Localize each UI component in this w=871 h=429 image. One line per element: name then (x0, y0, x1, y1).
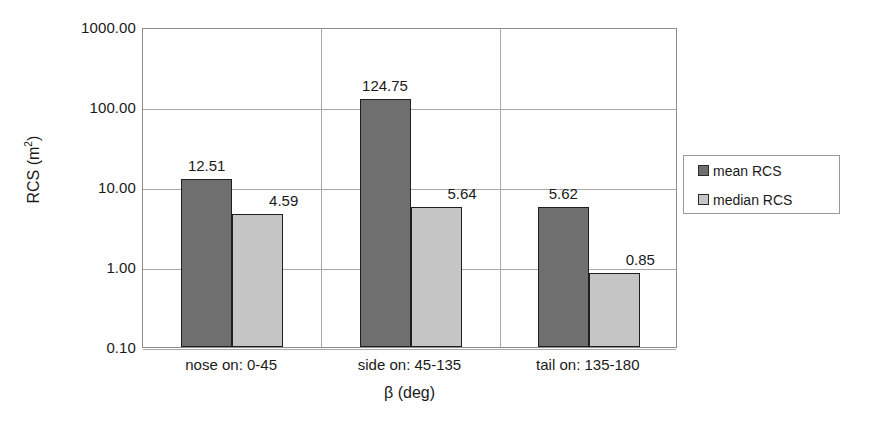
bar-value-label-mean-1: 12.51 (168, 157, 245, 174)
x-category-label-1: nose on: 0-45 (142, 356, 320, 373)
legend-item-median-rcs[interactable]: median RCS (684, 185, 839, 214)
bar-mean-1[interactable] (181, 179, 232, 347)
bar-value-label-median-3: 0.85 (602, 251, 679, 268)
category-separator-1 (321, 29, 322, 347)
legend-swatch-median-icon (698, 194, 709, 205)
x-axis-category-labels: nose on: 0-45side on: 45-135tail on: 135… (142, 356, 677, 380)
bar-median-1[interactable] (232, 214, 283, 347)
bar-value-label-mean-2: 124.75 (347, 77, 424, 94)
x-category-label-3: tail on: 135-180 (499, 356, 677, 373)
y-axis-tick-labels: 0.101.0010.00100.001000.00 (40, 28, 136, 348)
x-axis-title: β (deg) (142, 384, 677, 402)
bar-mean-2[interactable] (360, 99, 411, 347)
y-tick-label-10.00: 10.00 (44, 179, 136, 196)
legend-label-median: median RCS (713, 192, 792, 208)
bar-median-2[interactable] (411, 207, 462, 347)
chart-legend: mean RCS median RCS (683, 155, 840, 214)
y-tick-label-1.00: 1.00 (44, 259, 136, 276)
bar-value-label-median-1: 4.59 (245, 192, 322, 209)
bar-mean-3[interactable] (538, 207, 589, 347)
y-tick-label-100.00: 100.00 (44, 99, 136, 116)
legend-swatch-mean-icon (698, 165, 709, 176)
gridline-0.10 (143, 349, 676, 350)
x-category-label-2: side on: 45-135 (320, 356, 498, 373)
legend-label-mean: mean RCS (713, 163, 781, 179)
bar-value-label-median-2: 5.64 (424, 185, 501, 202)
legend-item-mean-rcs[interactable]: mean RCS (684, 156, 839, 185)
y-tick-label-0.10: 0.10 (44, 339, 136, 356)
y-tick-label-1000.00: 1000.00 (44, 19, 136, 36)
bar-value-label-mean-3: 5.62 (525, 185, 602, 202)
bar-median-3[interactable] (589, 273, 640, 347)
plot-area: 12.514.59124.755.645.620.85 (142, 28, 677, 348)
chart-figure: RCS (m2) 0.101.0010.00100.001000.00 12.5… (0, 0, 871, 429)
y-axis-title-exponent: 2 (23, 141, 34, 147)
